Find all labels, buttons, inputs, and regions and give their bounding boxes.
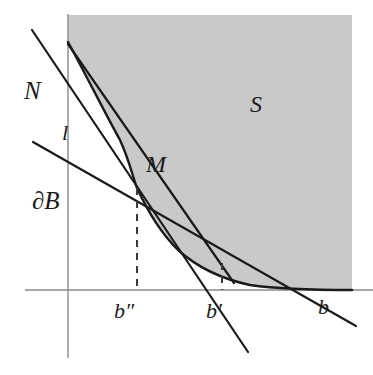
label-boundary-b: ∂B <box>32 188 60 213</box>
label-l: l <box>62 122 68 144</box>
label-n: N <box>24 78 41 103</box>
label-m: M <box>146 152 166 176</box>
label-b-prime: b′ <box>206 300 222 322</box>
label-b: b <box>318 296 329 318</box>
label-s: S <box>250 92 262 116</box>
geometric-diagram: N l ∂B M S b″ b′ b <box>0 0 373 375</box>
label-b-double-prime: b″ <box>114 300 134 322</box>
